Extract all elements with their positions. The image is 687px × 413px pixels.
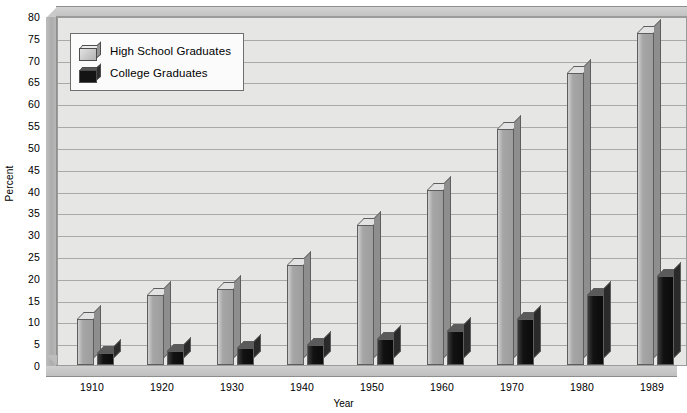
x-axis-tick: 1910 — [62, 381, 122, 393]
legend-item-college: College Graduates — [79, 62, 231, 84]
frame-top-slab — [56, 6, 687, 17]
bar-college-1989 — [657, 276, 674, 365]
gridline — [58, 171, 686, 172]
legend-item-high-school: High School Graduates — [79, 40, 231, 62]
legend-swatch-cube-icon — [79, 67, 101, 83]
y-axis-tick: 40 — [28, 187, 40, 197]
x-axis-tick: 1960 — [412, 381, 472, 393]
bar-college-1970 — [517, 319, 534, 365]
y-axis-tick: 45 — [28, 165, 40, 175]
bar-high-school-1970 — [497, 129, 514, 365]
y-axis-tick-labels: 80757065605550454035302520151050 — [0, 0, 44, 413]
x-axis-tick: 1940 — [272, 381, 332, 393]
bar-chart: Percent 80757065605550454035302520151050… — [0, 0, 687, 413]
gridline — [58, 149, 686, 150]
bar-high-school-1960 — [427, 190, 444, 365]
y-axis-tick: 20 — [28, 274, 40, 284]
frame-floor — [46, 366, 677, 377]
y-axis-tick: 0 — [34, 361, 40, 371]
bar-college-1920 — [167, 351, 184, 365]
y-axis-tick: 55 — [28, 121, 40, 131]
bar-college-1980 — [587, 295, 604, 365]
y-axis-tick: 50 — [28, 143, 40, 153]
bar-high-school-1989 — [637, 33, 654, 365]
chart-legend: High School Graduates College Graduates — [70, 33, 244, 91]
bar-college-1940 — [307, 345, 324, 365]
bar-high-school-1930 — [217, 289, 234, 365]
y-axis-tick: 30 — [28, 230, 40, 240]
bar-college-1960 — [447, 331, 464, 365]
gridline — [58, 214, 686, 215]
bar-high-school-1950 — [357, 225, 374, 365]
bar-high-school-1940 — [287, 265, 304, 365]
y-axis-tick: 5 — [34, 339, 40, 349]
bar-high-school-1910 — [77, 319, 94, 365]
y-axis-tick: 75 — [28, 34, 40, 44]
x-axis-tick: 1970 — [482, 381, 542, 393]
gridline — [58, 105, 686, 106]
bar-college-1910 — [97, 353, 114, 365]
y-axis-tick: 15 — [28, 296, 40, 306]
bar-high-school-1920 — [147, 295, 164, 365]
x-axis-tick: 1920 — [132, 381, 192, 393]
y-axis-tick: 25 — [28, 252, 40, 262]
x-axis-tick: 1989 — [622, 381, 682, 393]
y-axis-tick: 60 — [28, 99, 40, 109]
bar-college-1930 — [237, 348, 254, 365]
frame-left-wall — [46, 17, 57, 366]
gridline — [58, 127, 686, 128]
y-axis-tick: 65 — [28, 77, 40, 87]
y-axis-tick: 70 — [28, 56, 40, 66]
x-axis-title: Year — [0, 398, 687, 409]
x-axis-tick: 1980 — [552, 381, 612, 393]
y-axis-tick: 10 — [28, 317, 40, 327]
x-axis-tick: 1950 — [342, 381, 402, 393]
y-axis-tick: 35 — [28, 208, 40, 218]
bar-high-school-1980 — [567, 73, 584, 365]
bar-college-1950 — [377, 339, 394, 365]
y-axis-tick: 80 — [28, 12, 40, 22]
legend-label-high-school: High School Graduates — [110, 45, 231, 57]
legend-label-college: College Graduates — [110, 67, 208, 79]
legend-swatch-cube-icon — [79, 45, 101, 61]
x-axis-tick: 1930 — [202, 381, 262, 393]
gridline — [58, 193, 686, 194]
x-axis-tick-labels: 191019201930194019501960197019801989 — [0, 381, 687, 397]
